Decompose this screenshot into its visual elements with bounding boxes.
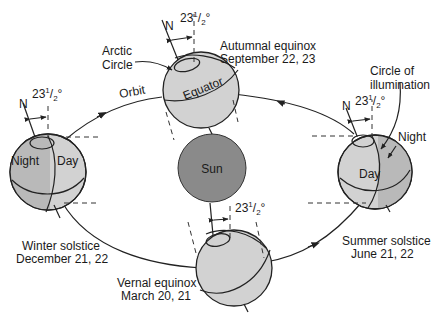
arctic-circle-label-2: Circle [102,58,133,72]
winter-solstice-name: Winter solstice [22,239,100,253]
tilt-label-autumnal: 231/2° [180,10,211,27]
summer-solstice-date: June 21, 22 [351,247,414,261]
arctic-circle-label-1: Arctic [102,44,132,58]
circle-of-illumination-label-2: illumination [370,78,430,92]
day-label-winter: Day [57,154,78,168]
autumnal-equinox-date: September 22, 23 [220,52,316,66]
vernal-equinox-name: Vernal equinox [117,276,196,290]
north-label-summer: N [342,99,351,113]
sun-label: Sun [201,162,222,176]
seasons-diagram: Sun Equator Night Day [0,0,439,318]
day-label-summer: Day [359,167,380,181]
orbit-label: Orbit [118,83,147,101]
circle-of-illumination-label-1: Circle of [370,64,415,78]
svg-text:231/2°: 231/2° [180,10,211,27]
earth-vernal-equinox [188,202,272,312]
north-label-autumnal: N [165,19,174,33]
tilt-label-summer: 231/2° [355,93,386,110]
earth-winter-solstice: Night Day [10,102,98,220]
tilt-label-winter: 231/2° [32,86,63,103]
svg-text:231/2°: 231/2° [235,200,266,217]
autumnal-equinox-name: Autumnal equinox [220,39,316,53]
svg-text:231/2°: 231/2° [32,86,63,103]
vernal-equinox-date: March 20, 21 [121,289,191,303]
night-label-winter: Night [11,154,40,168]
winter-solstice-date: December 21, 22 [16,252,108,266]
tilt-label-vernal: 231/2° [235,200,266,217]
svg-text:231/2°: 231/2° [355,93,386,110]
summer-solstice-name: Summer solstice [342,234,431,248]
arctic-circle-pointer [135,61,172,70]
north-label-winter: N [19,97,28,111]
night-label-summer: Night [398,130,427,144]
sun: Sun [178,134,246,202]
